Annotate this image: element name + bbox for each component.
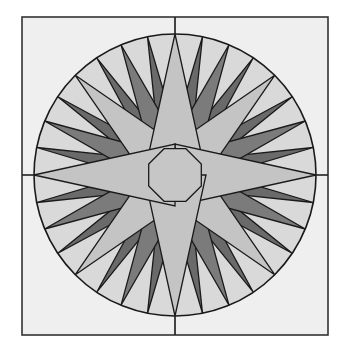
compass-diagram — [0, 0, 345, 354]
center-octagon — [149, 149, 202, 202]
